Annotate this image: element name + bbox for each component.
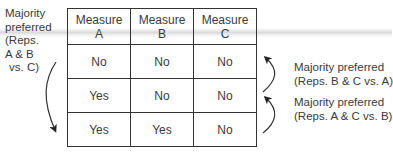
up-arrow-icon [263,98,275,133]
right-annotation-line: (Reps. A & C vs. B) [294,109,392,123]
right-annotation-line: (Reps. B & C vs. A) [294,74,393,88]
right-annotation-2: Majority preferred (Reps. A & C vs. B) [294,95,392,123]
right-annotation-1: Majority preferred (Reps. B & C vs. A) [294,60,393,88]
right-annotation-line: Majority preferred [294,95,392,109]
up-arrow-icon [263,58,275,92]
down-arrow-icon [46,62,56,130]
right-annotation-line: Majority preferred [294,60,393,74]
